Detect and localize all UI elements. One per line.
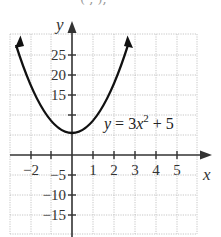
x-tick-label: 4 [152,162,160,178]
x-tick-label: 1 [89,162,97,178]
y-tick-label: 20 [51,67,66,83]
right-curve-arrow-icon [124,36,133,49]
parabola-chart: −2 1 2 3 4 5 25 20 15 −5 −10 −15 x y y =… [0,0,221,237]
equation-label: y = 3x2 + 5 [102,112,174,133]
y-tick-label: −15 [43,207,66,223]
y-tick-label: 15 [51,87,66,103]
y-tick-label: −5 [50,167,66,183]
grid [10,34,197,234]
left-curve-arrow-icon [15,36,24,49]
x-axis-arrow-icon [200,151,212,160]
y-tick-label: 25 [51,47,66,63]
y-tick-label: −10 [43,187,66,203]
x-axis-label: x [202,165,211,184]
y-axis-arrow-icon [68,21,77,33]
x-tick-label: −2 [23,162,39,178]
x-tick-label: 2 [110,162,118,178]
y-axis-label: y [54,15,64,34]
x-tick-label: 3 [131,162,139,178]
x-tick-label: 5 [173,162,181,178]
